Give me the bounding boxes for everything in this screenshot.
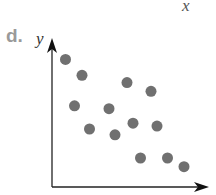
data-point bbox=[60, 54, 71, 65]
data-point bbox=[162, 153, 173, 164]
data-point bbox=[69, 100, 80, 111]
data-point bbox=[146, 86, 157, 97]
data-point bbox=[128, 118, 139, 129]
data-points bbox=[60, 54, 190, 172]
scatter-plot bbox=[0, 0, 216, 195]
data-point bbox=[122, 77, 133, 88]
data-point bbox=[77, 70, 88, 81]
data-point bbox=[135, 153, 146, 164]
data-point bbox=[104, 103, 115, 114]
data-point bbox=[110, 129, 121, 140]
data-point bbox=[179, 161, 190, 172]
data-point bbox=[84, 124, 95, 135]
data-point bbox=[152, 121, 163, 132]
